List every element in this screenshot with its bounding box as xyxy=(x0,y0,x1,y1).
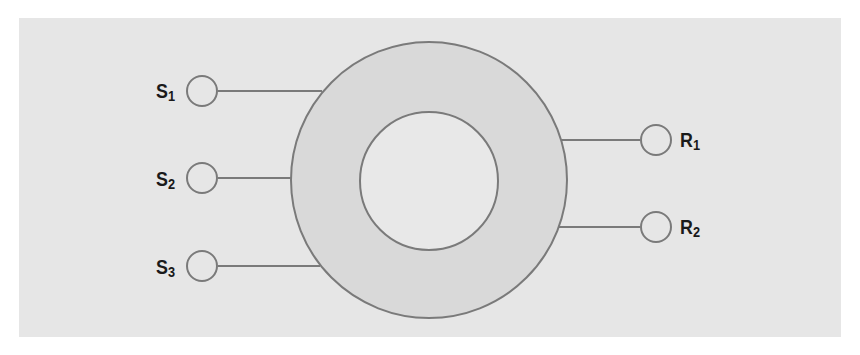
terminal-r1 xyxy=(641,125,671,155)
label-s1: S1 xyxy=(156,80,174,103)
terminal-s2 xyxy=(187,163,217,193)
diagram-canvas xyxy=(0,0,860,355)
label-s2: S2 xyxy=(156,168,174,191)
terminal-r2 xyxy=(641,212,671,242)
terminal-s1 xyxy=(187,76,217,106)
terminal-s3 xyxy=(187,251,217,281)
inner-circle xyxy=(360,112,498,250)
label-r2: R2 xyxy=(680,216,699,239)
label-r1: R1 xyxy=(680,129,699,152)
label-s3: S3 xyxy=(156,256,174,279)
